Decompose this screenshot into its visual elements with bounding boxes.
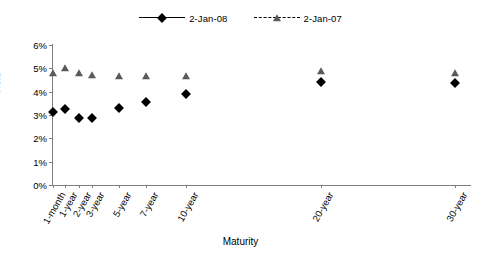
- data-point-2-jan-07-30-year[interactable]: [451, 69, 459, 76]
- y-tick-label: 2%: [21, 133, 47, 144]
- x-axis-line: [52, 185, 471, 186]
- x-tick-mark: [79, 185, 80, 188]
- data-point-2-jan-08-30-year[interactable]: [450, 78, 460, 88]
- x-axis-title: Maturity: [0, 236, 481, 247]
- legend-label-series-0: 2-Jan-08: [189, 13, 227, 24]
- y-axis-title: Yield: [0, 73, 2, 95]
- data-point-2-jan-07-7-year[interactable]: [142, 72, 150, 79]
- legend-entry-series-0[interactable]: 2-Jan-08: [139, 12, 227, 24]
- data-point-2-jan-07-10-year[interactable]: [182, 72, 190, 79]
- data-point-2-jan-08-3-year[interactable]: [87, 113, 97, 123]
- y-tick-mark: [49, 185, 52, 186]
- x-tick-mark: [146, 185, 147, 188]
- y-tick-label: 4%: [21, 86, 47, 97]
- data-point-2-jan-07-3-year[interactable]: [88, 71, 96, 78]
- x-tick-mark: [92, 185, 93, 188]
- y-tick-label: 3%: [21, 110, 47, 121]
- legend-key-2-jan-08: [139, 12, 185, 24]
- data-point-2-jan-07-1-year[interactable]: [61, 64, 69, 71]
- x-tick-mark: [119, 185, 120, 188]
- diamond-marker-icon: [157, 13, 167, 23]
- data-point-2-jan-07-1-month[interactable]: [49, 69, 57, 76]
- chart-legend: 2-Jan-08 2-Jan-07: [0, 8, 481, 28]
- data-point-2-jan-08-2-year[interactable]: [74, 113, 84, 123]
- triangle-marker-icon: [273, 14, 281, 21]
- data-point-2-jan-07-20-year[interactable]: [317, 67, 325, 74]
- y-tick-label: 0%: [21, 180, 47, 191]
- data-point-2-jan-08-5-year[interactable]: [114, 104, 124, 114]
- y-tick-label: 1%: [21, 156, 47, 167]
- data-point-2-jan-08-1-year[interactable]: [60, 104, 70, 114]
- x-tick-mark: [455, 185, 456, 188]
- y-tick-label: 6%: [21, 40, 47, 51]
- data-point-2-jan-08-10-year[interactable]: [181, 89, 191, 99]
- legend-key-2-jan-07: [254, 12, 300, 24]
- data-point-2-jan-08-7-year[interactable]: [141, 97, 151, 107]
- plot-area: [52, 45, 471, 185]
- data-point-2-jan-07-5-year[interactable]: [115, 72, 123, 79]
- data-point-2-jan-07-2-year[interactable]: [75, 69, 83, 76]
- x-tick-mark: [53, 185, 54, 188]
- legend-entry-series-1[interactable]: 2-Jan-07: [254, 12, 342, 24]
- legend-label-series-1: 2-Jan-07: [304, 13, 342, 24]
- x-tick-mark: [321, 185, 322, 188]
- y-tick-label: 5%: [21, 63, 47, 74]
- x-tick-mark: [186, 185, 187, 188]
- yield-curve-chart: 2-Jan-08 2-Jan-07 0%1%2%3%4%5%6% 1-month…: [0, 0, 481, 259]
- x-tick-mark: [65, 185, 66, 188]
- data-point-2-jan-08-20-year[interactable]: [316, 77, 326, 87]
